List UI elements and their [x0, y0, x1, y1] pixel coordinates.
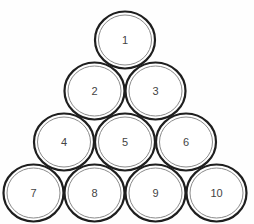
circle-10: 10 [187, 165, 247, 222]
circle-8: 8 [65, 165, 125, 222]
circle-label: 10 [210, 187, 222, 199]
circle-label: 5 [122, 136, 128, 148]
circle-label: 7 [30, 187, 36, 199]
circle-label: 3 [152, 85, 158, 97]
circle-5: 5 [95, 114, 155, 171]
circle-label: 2 [91, 85, 97, 97]
circle-label: 4 [61, 136, 67, 148]
circle-7: 7 [4, 165, 64, 222]
circle-6: 6 [156, 114, 216, 171]
circle-2: 2 [65, 63, 125, 120]
circle-3: 3 [126, 63, 186, 120]
circle-label: 8 [91, 187, 97, 199]
circle-triangle: 12345678910 [0, 0, 254, 224]
circle-9: 9 [126, 165, 186, 222]
circle-label: 1 [122, 34, 128, 46]
circle-4: 4 [34, 114, 94, 171]
circle-label: 6 [183, 136, 189, 148]
triangle-diagram: 12345678910 [0, 0, 254, 224]
circle-1: 1 [95, 12, 155, 69]
circle-label: 9 [152, 187, 158, 199]
